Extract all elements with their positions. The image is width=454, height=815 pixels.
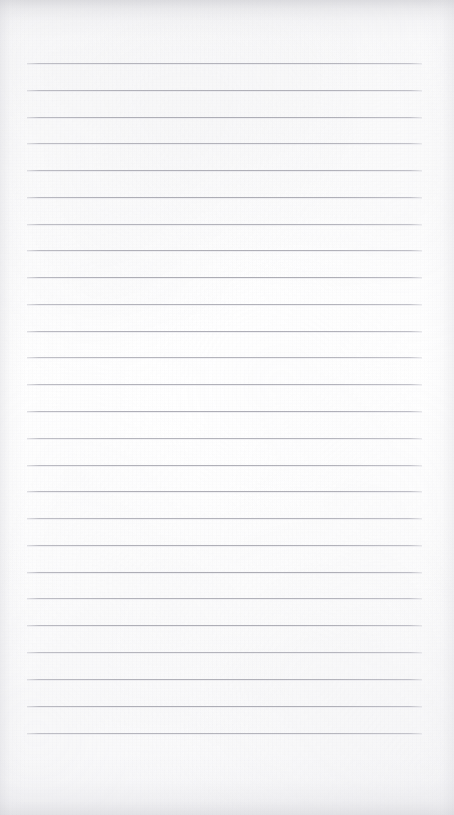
paper-sheet [0, 0, 454, 815]
scanned-page [0, 0, 454, 815]
